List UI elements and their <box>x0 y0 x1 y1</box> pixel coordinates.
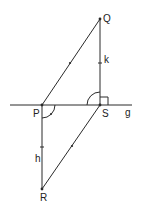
label-p: P <box>33 108 40 119</box>
label-h: h <box>35 153 41 164</box>
tick-mark-pq <box>69 62 71 64</box>
point-q <box>99 18 102 21</box>
label-s: S <box>102 108 109 119</box>
angle-arc-p <box>42 105 55 118</box>
label-g: g <box>125 107 131 118</box>
label-q: Q <box>103 13 111 24</box>
segment-pq <box>42 19 100 105</box>
right-angle-marker <box>100 97 108 105</box>
tick-mark-rs <box>71 145 73 147</box>
geometry-diagram: Q k P S g h R <box>0 0 142 209</box>
label-k: k <box>104 54 110 65</box>
point-p <box>41 104 44 107</box>
segment-rs <box>42 105 100 189</box>
label-r: R <box>40 192 47 203</box>
point-s <box>99 104 102 107</box>
point-r <box>41 188 44 191</box>
angle-arc-s <box>87 92 100 105</box>
angle-arc-p-arrow <box>50 113 52 115</box>
